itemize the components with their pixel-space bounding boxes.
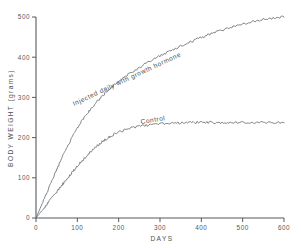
x-axis-tick-labels: 0100200300400500600 bbox=[34, 224, 290, 231]
y-axis-tick-labels: 0100200300400500 bbox=[18, 13, 30, 221]
x-tick-label: 400 bbox=[195, 224, 207, 231]
control-curve-label: Control bbox=[140, 114, 166, 125]
y-axis-tick-marks bbox=[32, 17, 36, 218]
y-tick-label: 200 bbox=[18, 134, 30, 141]
x-axis-title: DAYS bbox=[150, 235, 173, 242]
growth-hormone-body-weight-chart: 0100200300400500 0100200300400500600 BOD… bbox=[0, 0, 301, 248]
treated-curve-label: Injected daily with growth hormone bbox=[71, 50, 182, 107]
x-tick-label: 100 bbox=[71, 224, 83, 231]
x-tick-label: 200 bbox=[113, 224, 125, 231]
y-tick-label: 0 bbox=[26, 214, 30, 221]
y-tick-label: 300 bbox=[18, 94, 30, 101]
y-tick-label: 100 bbox=[18, 174, 30, 181]
y-axis-title: BODY WEIGHT (grams) bbox=[7, 69, 15, 167]
chart-canvas: 0100200300400500 0100200300400500600 BOD… bbox=[0, 0, 301, 248]
control-curve bbox=[36, 121, 284, 218]
x-tick-label: 600 bbox=[278, 224, 290, 231]
x-axis-tick-marks bbox=[36, 218, 284, 222]
x-tick-label: 300 bbox=[154, 224, 166, 231]
y-tick-label: 400 bbox=[18, 54, 30, 61]
y-tick-label: 500 bbox=[18, 13, 30, 20]
x-tick-label: 0 bbox=[34, 224, 38, 231]
x-tick-label: 500 bbox=[237, 224, 249, 231]
